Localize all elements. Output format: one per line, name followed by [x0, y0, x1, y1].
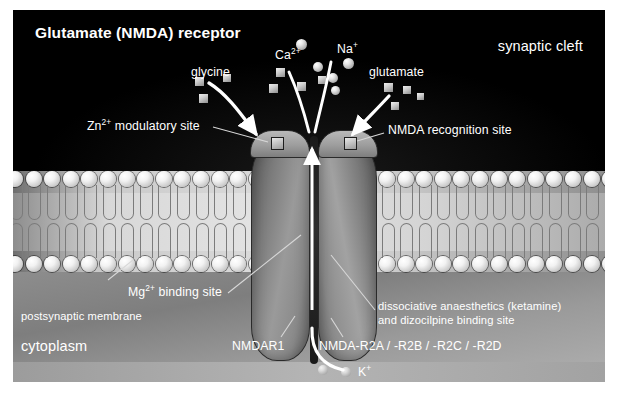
lipid-head — [398, 256, 414, 272]
lipid-tail — [512, 185, 525, 220]
lipid-tail — [549, 185, 562, 220]
lipid-tail — [568, 223, 581, 258]
lipid-head — [137, 256, 153, 272]
page-title: Glutamate (NMDA) receptor — [35, 24, 241, 42]
ligand-square — [276, 68, 285, 77]
lipid-tail — [103, 223, 116, 258]
lipid-tail — [233, 185, 246, 220]
nmda-recognition-site-label: NMDA recognition site — [388, 123, 512, 137]
lipid-head — [546, 256, 562, 272]
lipid-tail — [177, 223, 190, 258]
anaesthetic-site-label-line2: and dizocilpine binding site — [378, 314, 515, 326]
lipid-tail — [84, 223, 97, 258]
lipid-head — [100, 256, 116, 272]
ligand-square — [417, 93, 424, 100]
lipid-tail — [493, 185, 506, 220]
lipid-head — [472, 256, 488, 272]
receptor-subunit-right — [318, 139, 377, 361]
lipid-head — [379, 256, 395, 272]
ligand-square — [384, 83, 393, 92]
lipid-tail — [140, 185, 153, 220]
cation-sphere — [343, 58, 354, 69]
lipid-tail — [13, 223, 23, 258]
lipid-head — [174, 256, 190, 272]
nmda-receptor-diagram: Glutamate (NMDA) receptor synaptic cleft… — [13, 10, 605, 382]
potassium-sphere — [318, 365, 328, 375]
lipid-head — [26, 256, 42, 272]
lipid-head — [435, 256, 451, 272]
cation-sphere — [331, 86, 340, 95]
lipid-tail — [196, 185, 209, 220]
lipid-tail — [456, 185, 469, 220]
lipid-tail — [121, 223, 134, 258]
lipid-tail — [214, 223, 227, 258]
lipid-head — [528, 256, 544, 272]
lipid-tail — [586, 185, 599, 220]
lipid-tail — [530, 223, 543, 258]
lipid-tail — [437, 223, 450, 258]
lipid-head — [193, 256, 209, 272]
lipid-tail — [158, 185, 171, 220]
zinc-modulatory-site-label: Zn2+ modulatory site — [87, 117, 200, 133]
lipid-tail — [568, 185, 581, 220]
ligand-square — [403, 86, 411, 94]
lipid-tail — [84, 185, 97, 220]
lipid-head — [212, 256, 228, 272]
magnesium-binding-site-label: Mg2+ binding site — [128, 283, 222, 299]
lipid-tail — [586, 223, 599, 258]
synaptic-cleft-label: synaptic cleft — [498, 38, 583, 54]
lipid-tail — [419, 185, 432, 220]
lipid-tail — [530, 185, 543, 220]
lipid-tail — [103, 185, 116, 220]
ligand-square — [391, 102, 399, 110]
lipid-tail — [47, 185, 60, 220]
sodium-label: Na+ — [337, 40, 358, 56]
ligand-square — [269, 84, 278, 93]
lipid-head — [230, 256, 246, 272]
ligand-square — [318, 76, 326, 84]
ligand-square — [297, 82, 306, 91]
nmdar1-label: NMDAR1 — [232, 339, 285, 353]
calcium-label: Ca2+ — [275, 46, 301, 62]
lipid-tail — [140, 223, 153, 258]
nmda-r2-label: NMDA-R2A / -R2B / -R2C / -R2D — [319, 339, 502, 353]
lipid-tail — [28, 185, 41, 220]
glycine-label: glycine — [191, 65, 230, 79]
glutamate-label: glutamate — [369, 65, 424, 79]
lipid-tail — [400, 185, 413, 220]
anaesthetic-site-label-line1: dissociative anaesthetics (ketamine) — [378, 300, 561, 312]
lipid-tail — [233, 223, 246, 258]
lipid-tail — [382, 185, 395, 220]
cation-sphere — [328, 73, 338, 83]
lipid-head — [13, 256, 23, 272]
lipid-tail — [475, 185, 488, 220]
cation-sphere — [313, 62, 323, 72]
lipid-head — [602, 256, 605, 272]
zinc-binding-site-marker — [271, 137, 284, 150]
lipid-tail — [456, 223, 469, 258]
lipid-tail — [65, 185, 78, 220]
lipid-tail — [493, 223, 506, 258]
ligand-square — [199, 94, 208, 103]
lipid-tail — [214, 185, 227, 220]
lipid-head — [119, 256, 135, 272]
lipid-head — [63, 256, 79, 272]
lipid-tail — [121, 185, 134, 220]
lipid-tail — [28, 223, 41, 258]
lipid-head — [453, 256, 469, 272]
lipid-head — [584, 256, 600, 272]
lipid-tail — [400, 223, 413, 258]
lipid-tail — [47, 223, 60, 258]
nmda-receptor-channel — [249, 130, 379, 370]
lipid-head — [81, 256, 97, 272]
lipid-head — [565, 256, 581, 272]
potassium-label: K+ — [358, 363, 371, 379]
lipid-tail — [177, 185, 190, 220]
lipid-tail — [65, 223, 78, 258]
lipid-tail — [549, 223, 562, 258]
lipid-head — [156, 256, 172, 272]
nmda-recognition-site-marker — [344, 137, 357, 150]
postsynaptic-membrane-label: postsynaptic membrane — [21, 310, 142, 322]
lipid-tail — [437, 185, 450, 220]
lipid-tail — [475, 223, 488, 258]
